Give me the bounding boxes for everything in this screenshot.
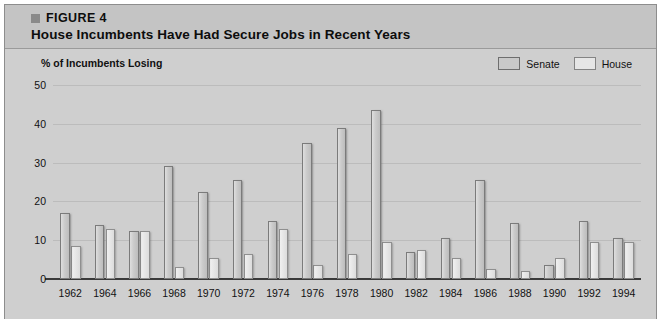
y-axis-title: % of Incumbents Losing [41, 57, 162, 69]
x-axis-tick-label: 1986 [474, 287, 497, 299]
y-axis-tick-label: 0 [40, 273, 46, 285]
legend-item-house: House [574, 57, 632, 70]
bar-group [364, 85, 399, 279]
bar-senate-1964 [95, 225, 105, 279]
x-axis-tick-label: 1984 [439, 287, 462, 299]
bar-group [191, 85, 226, 279]
bar-group [295, 85, 330, 279]
bar-senate-1984 [441, 238, 451, 279]
bar-house-1966 [140, 231, 150, 280]
bar-house-1980 [382, 242, 392, 279]
bar-house-1974 [279, 229, 289, 279]
bar-senate-1978 [337, 128, 347, 279]
x-axis-labels: 1962196419661968197019721974197619781980… [53, 287, 641, 305]
bar-senate-1968 [164, 166, 174, 279]
y-axis-tick-label: 30 [34, 157, 46, 169]
bar-house-1990 [555, 258, 565, 279]
bar-senate-1976 [302, 143, 312, 279]
figure-header: FIGURE 4 House Incumbents Have Had Secur… [5, 5, 656, 49]
bar-house-1962 [71, 246, 81, 279]
bar-house-1970 [209, 258, 219, 279]
bar-house-1964 [106, 229, 116, 279]
bar-house-1978 [348, 254, 358, 279]
x-axis-tick-label: 1972 [232, 287, 255, 299]
x-axis-tick-label: 1966 [128, 287, 151, 299]
x-axis-tick-label: 1970 [197, 287, 220, 299]
bar-senate-1974 [268, 221, 278, 279]
x-axis-tick-label: 1988 [508, 287, 531, 299]
bar-senate-1988 [510, 223, 520, 279]
gridline [53, 124, 641, 125]
y-axis-tick-label: 40 [34, 118, 46, 130]
bar-house-1988 [521, 271, 531, 279]
bar-group [606, 85, 641, 279]
chart-legend: Senate House [498, 57, 632, 70]
bar-senate-1994 [613, 238, 623, 279]
bar-house-1986 [486, 269, 496, 279]
bar-group [572, 85, 607, 279]
x-axis-tick-label: 1974 [266, 287, 289, 299]
bar-house-1972 [244, 254, 254, 279]
bar-senate-1992 [579, 221, 589, 279]
gridline [53, 163, 641, 164]
x-axis-tick-label: 1962 [59, 287, 82, 299]
legend-swatch-house-icon [574, 57, 596, 70]
gridline [53, 201, 641, 202]
bar-house-1984 [452, 258, 462, 279]
bar-group [53, 85, 88, 279]
x-axis-tick-label: 1978 [335, 287, 358, 299]
plot-area: 01020304050 [53, 85, 641, 279]
bar-senate-1982 [406, 252, 416, 279]
bar-house-1994 [624, 242, 634, 279]
x-axis-tick-label: 1968 [162, 287, 185, 299]
x-axis-tick-label: 1990 [543, 287, 566, 299]
bar-group [537, 85, 572, 279]
x-axis-tick-label: 1982 [404, 287, 427, 299]
figure-label-line: FIGURE 4 [31, 11, 107, 25]
bar-senate-1970 [198, 192, 208, 279]
figure-number: FIGURE 4 [46, 11, 107, 25]
bar-group [88, 85, 123, 279]
bars-container [53, 85, 641, 279]
bar-group [503, 85, 538, 279]
figure-root: FIGURE 4 House Incumbents Have Had Secur… [0, 0, 661, 323]
bar-house-1992 [590, 242, 600, 279]
chart-body: % of Incumbents Losing Senate House 0102… [5, 49, 656, 319]
x-axis-tick-label: 1976 [301, 287, 324, 299]
bar-group [399, 85, 434, 279]
x-axis-tick-label: 1964 [93, 287, 116, 299]
bar-group [226, 85, 261, 279]
x-axis-tick-label: 1994 [612, 287, 635, 299]
bar-group [122, 85, 157, 279]
bar-senate-1966 [129, 231, 139, 280]
bar-group [157, 85, 192, 279]
square-bullet-icon [31, 14, 40, 23]
y-axis-tick-label: 20 [34, 195, 46, 207]
bar-senate-1990 [544, 265, 554, 279]
legend-item-senate: Senate [498, 57, 559, 70]
y-axis-tick-label: 50 [34, 79, 46, 91]
x-axis-tick-label: 1992 [577, 287, 600, 299]
bar-house-1982 [417, 250, 427, 279]
bar-house-1976 [313, 265, 323, 279]
bar-house-1968 [175, 267, 185, 279]
bar-senate-1962 [60, 213, 70, 279]
figure-card: FIGURE 4 House Incumbents Have Had Secur… [4, 4, 657, 319]
gridline [53, 85, 641, 86]
legend-swatch-senate-icon [498, 57, 520, 70]
x-axis-tick-label: 1980 [370, 287, 393, 299]
figure-title: House Incumbents Have Had Secure Jobs in… [31, 27, 410, 42]
legend-label-house: House [602, 58, 632, 70]
legend-label-senate: Senate [526, 58, 559, 70]
bar-senate-1972 [233, 180, 243, 279]
bar-group [468, 85, 503, 279]
y-axis-tick-label: 10 [34, 234, 46, 246]
bar-group [330, 85, 365, 279]
bar-group [261, 85, 296, 279]
bar-group [433, 85, 468, 279]
bar-senate-1980 [371, 110, 381, 279]
bar-senate-1986 [475, 180, 485, 279]
